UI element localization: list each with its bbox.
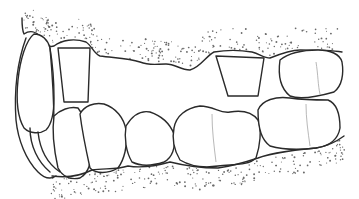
upper-abutment-left [58, 48, 90, 102]
lower-molar-1 [173, 106, 260, 167]
upper-abutment-right [216, 56, 264, 96]
lower-molar-2 [258, 98, 340, 150]
lower-premolar-2 [125, 112, 174, 165]
upper-molar [279, 50, 342, 98]
teeth-drawing [0, 0, 359, 199]
dental-illustration [0, 0, 359, 199]
